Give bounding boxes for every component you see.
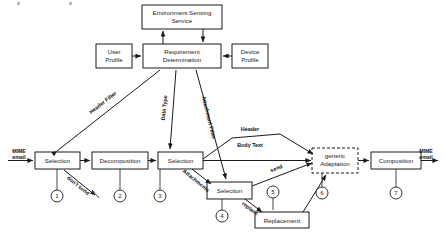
diagram-canvas: Environment Sensing Service User Profile… — [0, 0, 445, 236]
selection-3-label: Selection — [168, 157, 194, 164]
environment-sensing-service-label-line2: Service — [172, 17, 193, 24]
node-replacement: Replacement — [255, 212, 309, 228]
step-callout-6: 6 — [316, 173, 328, 199]
edge-label-attachment-filter: Attachment Filter — [201, 95, 218, 140]
input-label-line2: email — [12, 154, 26, 160]
generic-adaptation-6-label-line2: Adaptation — [320, 160, 350, 167]
step-callout-4: 4 — [216, 199, 228, 222]
node-composition-7: Composition — [371, 152, 421, 169]
decomposition-2-label: Decomposition — [100, 157, 141, 164]
generic-adaptation-6-label-line1: generic — [325, 152, 345, 159]
node-device-profile: Device Profile — [232, 44, 268, 68]
scan-speck — [17, 2, 20, 5]
environment-sensing-service-label-line1: Environment Sensing — [153, 9, 212, 16]
block-diagram: Environment Sensing Service User Profile… — [0, 0, 445, 236]
device-profile-label-line1: Device — [241, 48, 260, 55]
edge-rd-to-selection1-header-filter — [57, 70, 160, 151]
node-user-profile: User Profile — [96, 44, 132, 68]
edge-label-header: Header — [241, 126, 260, 132]
step-callout-3: 3 — [154, 169, 166, 202]
node-environment-sensing-service: Environment Sensing Service — [142, 5, 222, 29]
node-selection-1: Selection — [35, 152, 80, 169]
device-profile-label-line2: Profile — [241, 56, 259, 63]
requirement-determination-label-line1: Requirement — [164, 48, 200, 55]
step-callout-1: 1 — [51, 169, 63, 202]
scan-speck — [69, 2, 72, 5]
composition-7-label: Composition — [379, 157, 414, 164]
requirement-determination-label-line2: Determination — [163, 56, 202, 63]
step-callout-5: 5 — [267, 186, 279, 210]
node-selection-3: Selection — [158, 152, 203, 169]
step-callout-2: 2 — [114, 169, 126, 202]
edge-rd-to-selection3-data-type — [170, 70, 176, 149]
edge-label-send: send — [269, 163, 283, 173]
user-profile-label-line2: Profile — [105, 56, 123, 63]
edge-label-header-filter: Header Filter — [88, 89, 118, 115]
edge-label-data-type: Data Type — [160, 95, 169, 121]
node-decomposition-2: Decomposition — [92, 152, 148, 169]
edge-label-dont-send: don't send — [66, 175, 91, 197]
node-requirement-determination: Requirement Determination — [143, 44, 221, 68]
node-generic-adaptation-6: generic Adaptation — [312, 148, 358, 173]
output-label-line2: email — [419, 154, 433, 160]
edge-label-body-text: Body Text — [237, 142, 263, 148]
step-callout-7: 7 — [390, 169, 402, 199]
selection-4-label: Selection — [217, 187, 243, 194]
user-profile-label-line1: User — [107, 48, 120, 55]
selection-1-label: Selection — [45, 157, 71, 164]
replacement-label: Replacement — [264, 217, 301, 224]
node-selection-4: Selection — [207, 182, 252, 199]
